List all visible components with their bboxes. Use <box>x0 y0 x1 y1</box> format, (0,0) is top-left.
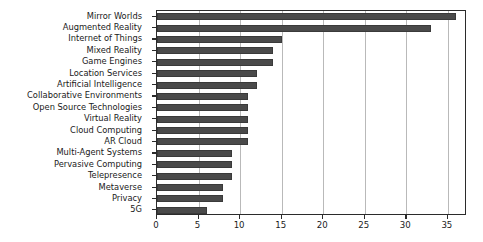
plot-area <box>156 10 466 215</box>
bar <box>157 59 273 66</box>
bar <box>157 70 257 77</box>
bar-row <box>157 125 465 136</box>
bar-row <box>157 34 465 45</box>
bar-row <box>157 11 465 22</box>
y-axis-label: Mixed Reality <box>87 45 142 55</box>
y-axis-label: 5G <box>130 204 142 214</box>
bar <box>157 36 282 43</box>
x-tick-mark <box>281 215 282 219</box>
y-axis-label: Privacy <box>112 193 142 203</box>
x-tick-label: 25 <box>358 220 369 230</box>
y-axis-label: Metaverse <box>99 182 142 192</box>
x-tick-label: 0 <box>153 220 158 230</box>
bar-row <box>157 68 465 79</box>
x-tick-mark <box>198 215 199 219</box>
y-axis-label: Location Services <box>69 68 142 78</box>
bar <box>157 104 248 111</box>
bar-row <box>157 45 465 56</box>
y-axis-label: Multi-Agent Systems <box>56 147 142 157</box>
bar-row <box>157 159 465 170</box>
bar <box>157 207 207 214</box>
x-tick-mark <box>322 215 323 219</box>
bar-row <box>157 193 465 204</box>
bar <box>157 82 257 89</box>
bar <box>157 47 273 54</box>
bar <box>157 13 456 20</box>
y-axis-category-labels: Mirror WorldsAugmented RealityInternet o… <box>0 10 150 215</box>
bar-row <box>157 114 465 125</box>
bar-row <box>157 182 465 193</box>
y-axis-label: AR Cloud <box>104 136 142 146</box>
y-axis-label: Cloud Computing <box>70 125 142 135</box>
bar-row <box>157 170 465 181</box>
x-tick-mark <box>239 215 240 219</box>
x-tick-label: 30 <box>400 220 411 230</box>
y-axis-label: Augmented Reality <box>63 22 142 32</box>
bar-row <box>157 22 465 33</box>
bar-row <box>157 102 465 113</box>
bar <box>157 173 232 180</box>
bar-row <box>157 136 465 147</box>
bar-row <box>157 205 465 215</box>
y-axis-label: Open Source Technologies <box>33 102 142 112</box>
x-tick-mark <box>364 215 365 219</box>
bar-row <box>157 57 465 68</box>
y-axis-label: Mirror Worlds <box>87 11 142 21</box>
x-tick-label: 10 <box>234 220 245 230</box>
x-tick-mark <box>447 215 448 219</box>
y-axis-label: Pervasive Computing <box>54 159 142 169</box>
bar <box>157 138 248 145</box>
bar <box>157 25 431 32</box>
bar <box>157 184 223 191</box>
x-tick-mark <box>405 215 406 219</box>
y-axis-label: Artificial Intelligence <box>57 79 142 89</box>
x-tick-label: 20 <box>317 220 328 230</box>
x-tick-label: 15 <box>275 220 286 230</box>
bar <box>157 161 232 168</box>
y-axis-label: Telepresence <box>88 170 142 180</box>
bar <box>157 195 223 202</box>
bar <box>157 93 248 100</box>
bar-chart: Mirror WorldsAugmented RealityInternet o… <box>0 0 483 242</box>
bar <box>157 150 232 157</box>
x-tick-mark <box>156 215 157 219</box>
y-axis-label: Game Engines <box>82 56 142 66</box>
x-tick-label: 35 <box>441 220 452 230</box>
y-axis-label: Virtual Reality <box>84 113 142 123</box>
bar-row <box>157 91 465 102</box>
y-axis-label: Internet of Things <box>68 33 142 43</box>
y-axis-label: Collaborative Environments <box>27 90 142 100</box>
x-axis-ticks: 05101520253035 <box>156 215 466 239</box>
bar-series <box>157 11 465 214</box>
bar-row <box>157 79 465 90</box>
bar-row <box>157 148 465 159</box>
x-tick-label: 5 <box>195 220 200 230</box>
bar <box>157 127 248 134</box>
bar <box>157 116 248 123</box>
